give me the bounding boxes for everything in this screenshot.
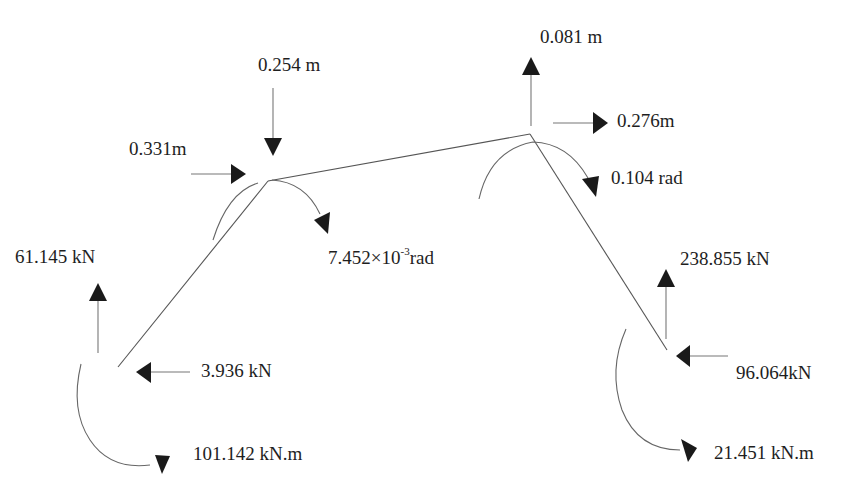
right-moment-reaction-label: 21.451 kN.m <box>714 443 814 462</box>
left-vertical-reaction-label: 61.145 kN <box>15 247 95 266</box>
right-moment-reaction-arc-icon <box>616 329 697 462</box>
knee-horizontal-displacement-label: 0.331m <box>129 139 187 158</box>
apex-vertical-displacement-label: 0.081 m <box>540 27 602 46</box>
knee-horizontal-displacement-arrow-icon <box>191 164 246 184</box>
right-horizontal-reaction-label: 96.064kN <box>736 363 811 382</box>
right-vertical-reaction-label: 238.855 kN <box>680 249 770 268</box>
left-horizontal-reaction-arrow-icon <box>136 362 190 383</box>
right-horizontal-reaction-arrow-icon <box>676 345 728 367</box>
left-moment-reaction-arc-icon <box>77 364 170 474</box>
apex-rotation-arc-icon <box>479 142 599 199</box>
left-horizontal-reaction-label: 3.936 kN <box>201 361 272 380</box>
knee-rotation-arc-icon <box>213 180 330 240</box>
left-moment-reaction-label: 101.142 kN.m <box>193 444 302 463</box>
knee-rotation-value: 7.452×10 <box>328 247 400 268</box>
knee-rotation-exponent: -3 <box>400 245 409 257</box>
left-vertical-reaction-arrow-icon <box>89 283 107 353</box>
right-vertical-reaction-arrow-icon <box>657 269 675 339</box>
left-column-member <box>118 181 268 367</box>
apex-vertical-displacement-arrow-icon <box>522 57 540 126</box>
knee-vertical-displacement-arrow-icon <box>264 88 282 156</box>
knee-vertical-displacement-label: 0.254 m <box>258 55 320 74</box>
apex-horizontal-displacement-label: 0.276m <box>617 111 675 130</box>
knee-rotation-unit: rad <box>410 247 434 268</box>
rafter-member <box>268 134 530 181</box>
knee-rotation-label: 7.452×10-3rad <box>328 248 434 267</box>
apex-rotation-label: 0.104 rad <box>611 168 683 187</box>
apex-horizontal-displacement-arrow-icon <box>553 112 608 134</box>
